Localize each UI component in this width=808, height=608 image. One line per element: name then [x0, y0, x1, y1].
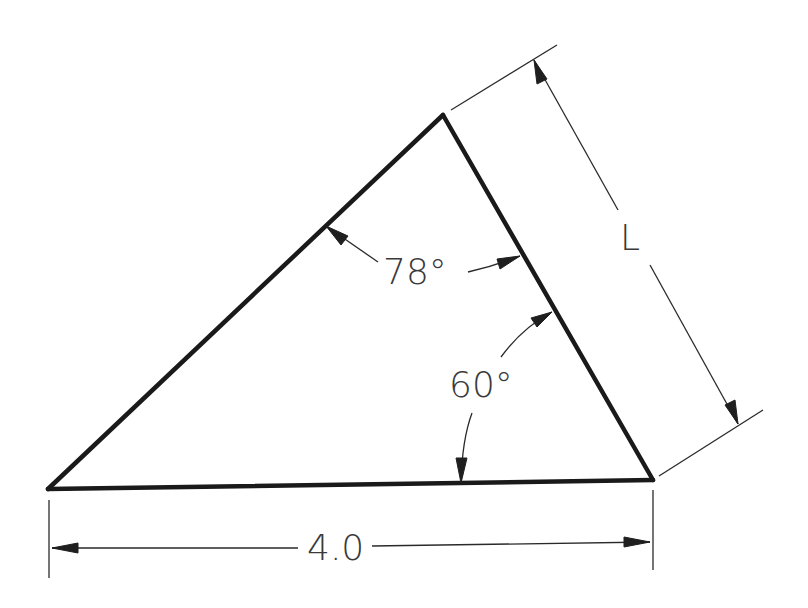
edge-right-side	[443, 115, 653, 480]
dimension-line-side-upper	[534, 60, 618, 210]
arrowhead-60-upper	[531, 312, 552, 327]
extension-line-bottom	[659, 410, 763, 476]
arrowhead-base-left	[52, 543, 78, 553]
angle-60-label: 60°	[449, 367, 513, 403]
arrowhead-side-upper	[534, 60, 547, 84]
triangle	[48, 115, 653, 489]
arrowhead-base-right	[624, 537, 650, 547]
dimension-line-base-right	[372, 542, 650, 546]
dimension-line-side-lower	[650, 265, 738, 424]
angle-78-label: 78°	[383, 254, 447, 290]
triangle-diagram	[0, 0, 808, 608]
edge-left-side	[48, 115, 443, 489]
arrowhead-side-lower	[725, 400, 738, 424]
base-length-label: 4.0	[307, 530, 364, 566]
arrowhead-78-right	[497, 256, 520, 269]
edge-base	[48, 480, 653, 489]
side-length-label: L	[620, 220, 640, 256]
arrowhead-78-left	[326, 226, 348, 245]
arrowhead-60-lower	[456, 458, 467, 483]
